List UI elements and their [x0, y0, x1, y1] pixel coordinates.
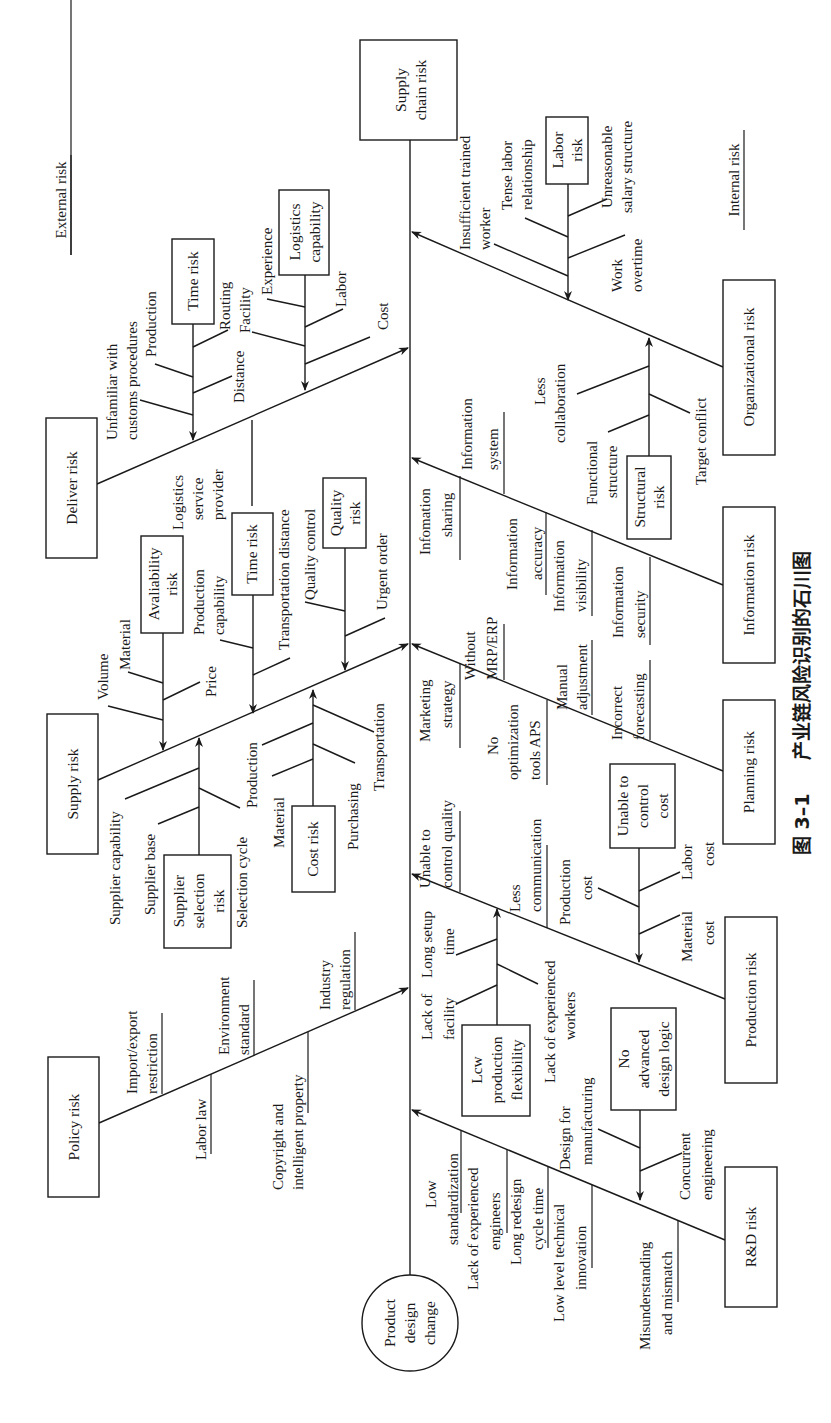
- svg-text:Distance: Distance: [231, 350, 247, 403]
- svg-text:cost: cost: [579, 875, 595, 900]
- svg-text:Routing: Routing: [217, 281, 233, 330]
- svg-text:Production risk: Production risk: [742, 952, 759, 1047]
- svg-text:forecasting: forecasting: [631, 673, 647, 740]
- svg-text:risk: risk: [163, 572, 180, 596]
- svg-text:structure: structure: [604, 445, 620, 498]
- svg-text:Deliver risk: Deliver risk: [63, 451, 80, 525]
- svg-text:flexibility: flexibility: [508, 1039, 525, 1100]
- caption-figure-number: 图 3–1: [791, 793, 813, 855]
- svg-text:Functional: Functional: [584, 441, 600, 505]
- svg-text:Incorrect: Incorrect: [609, 685, 625, 740]
- svg-text:External risk: External risk: [53, 161, 69, 239]
- svg-text:Tense labor: Tense labor: [499, 141, 515, 210]
- svg-text:design logic: design logic: [655, 1021, 672, 1096]
- svg-text:Structural: Structural: [631, 466, 648, 527]
- svg-text:Experience: Experience: [259, 227, 275, 295]
- quality-risk-box[interactable]: Quality risk: [323, 478, 366, 548]
- svg-text:intelligent property: intelligent property: [290, 1074, 306, 1190]
- svg-text:cost: cost: [701, 920, 717, 945]
- svg-text:Environment: Environment: [216, 976, 232, 1055]
- svg-text:Transportation distance: Transportation distance: [276, 509, 292, 650]
- svg-text:adjustment: adjustment: [574, 643, 590, 710]
- svg-text:capability: capability: [211, 575, 227, 635]
- branch-policy-risk: Policy risk Import/export restriction La…: [48, 932, 408, 1197]
- no-advanced-design-logic-box[interactable]: No advanced design logic: [611, 1008, 676, 1110]
- supplier-selection-risk-box[interactable]: Supplier selection risk: [164, 855, 231, 948]
- deliver-risk-box[interactable]: Deliver risk: [46, 418, 97, 558]
- svg-text:Unfamiliar with: Unfamiliar with: [104, 343, 120, 440]
- svg-text:risk: risk: [568, 138, 585, 162]
- svg-text:Supplier capability: Supplier capability: [107, 811, 123, 925]
- svg-text:engineers: engineers: [487, 1192, 503, 1250]
- svg-text:customs procedures: customs procedures: [124, 321, 140, 440]
- svg-text:Facility: Facility: [237, 287, 253, 333]
- svg-text:Production: Production: [557, 859, 573, 925]
- policy-risk-box[interactable]: Policy risk: [48, 1057, 99, 1197]
- svg-text:manufacturing: manufacturing: [579, 1077, 595, 1165]
- svg-text:Logistics: Logistics: [286, 204, 303, 261]
- svg-text:Misunderstanding: Misunderstanding: [637, 1241, 653, 1350]
- tail-label-2: design: [401, 1303, 418, 1344]
- svg-text:Quality: Quality: [327, 490, 344, 537]
- cost-risk-box[interactable]: Cost risk: [292, 806, 335, 892]
- fishbone-diagram: Supply chain risk Product design change …: [0, 0, 831, 1423]
- svg-text:Material: Material: [271, 797, 287, 848]
- labor-risk-box[interactable]: Labor risk: [546, 117, 588, 184]
- svg-text:Information: Information: [610, 566, 626, 638]
- planning-risk-box[interactable]: Planning risk: [723, 700, 775, 844]
- svg-text:standard: standard: [236, 1004, 252, 1055]
- svg-text:engineering: engineering: [699, 1129, 715, 1200]
- svg-text:production: production: [488, 1036, 505, 1103]
- svg-text:Time risk: Time risk: [243, 524, 260, 584]
- supply-time-risk-box[interactable]: Time risk: [232, 513, 273, 595]
- svg-text:Planning risk: Planning risk: [740, 731, 757, 813]
- svg-text:Avaliability: Avaliability: [145, 547, 162, 620]
- svg-text:Unable to: Unable to: [614, 775, 631, 836]
- deliver-time-risk-box[interactable]: Time risk: [172, 239, 214, 324]
- svg-text:Lcw: Lcw: [468, 1055, 485, 1083]
- tail-circle-product-design-change[interactable]: Product design change: [362, 1275, 458, 1371]
- organizational-risk-box[interactable]: Organizational risk: [723, 280, 775, 455]
- svg-text:Supplier base: Supplier base: [142, 833, 158, 915]
- svg-text:Insufficient trained: Insufficient trained: [457, 135, 473, 250]
- svg-text:Supply risk: Supply risk: [64, 748, 81, 819]
- svg-text:Long redesign: Long redesign: [508, 1178, 524, 1265]
- svg-text:and mismatch: and mismatch: [659, 1251, 675, 1335]
- svg-text:cost: cost: [654, 793, 671, 819]
- branch-information-risk: Information risk Infomation sharing Info…: [412, 398, 775, 663]
- svg-text:Price: Price: [203, 666, 219, 697]
- unable-to-control-cost-box[interactable]: Unable to control cost: [610, 764, 675, 848]
- svg-text:salary structure: salary structure: [619, 121, 635, 213]
- branch-planning-risk: Planning risk Marketing strategy Without…: [412, 617, 775, 844]
- head-box-supply-chain-risk[interactable]: Supply chain risk: [360, 40, 457, 140]
- svg-text:Target conflict: Target conflict: [693, 397, 709, 485]
- head-label-2: chain risk: [412, 59, 429, 120]
- svg-text:Purchasing: Purchasing: [345, 783, 361, 850]
- svg-text:Material: Material: [679, 911, 695, 962]
- logistics-capability-box[interactable]: Logistics capability: [279, 190, 329, 275]
- svg-text:Less: Less: [532, 377, 548, 405]
- low-production-flexibility-box[interactable]: Lcw production flexibility: [462, 1025, 530, 1116]
- svg-text:Work: Work: [609, 259, 625, 292]
- svg-text:risk: risk: [346, 501, 363, 525]
- svg-text:Cost: Cost: [375, 302, 391, 330]
- svg-text:Less: Less: [507, 884, 523, 912]
- svg-text:service: service: [190, 477, 206, 520]
- svg-text:Design for: Design for: [557, 1106, 573, 1170]
- svg-text:R&D risk: R&D risk: [742, 1206, 759, 1267]
- svg-text:Material: Material: [117, 619, 133, 670]
- information-risk-box[interactable]: Information risk: [723, 507, 775, 663]
- production-risk-box[interactable]: Production risk: [725, 917, 777, 1083]
- rnd-risk-box[interactable]: R&D risk: [725, 1167, 777, 1307]
- svg-text:Labor law: Labor law: [193, 1099, 209, 1160]
- svg-text:advanced: advanced: [635, 1029, 652, 1088]
- structural-risk-box[interactable]: Structural risk: [627, 456, 671, 539]
- supply-risk-box[interactable]: Supply risk: [47, 714, 98, 854]
- availability-risk-box[interactable]: Avaliability risk: [141, 536, 183, 633]
- svg-text:Low: Low: [423, 1180, 439, 1208]
- caption-title: 产业链风险识别的石川图: [791, 551, 813, 760]
- svg-text:Marketing: Marketing: [417, 679, 433, 742]
- svg-text:standardization: standardization: [445, 1153, 461, 1245]
- svg-text:time: time: [441, 928, 457, 955]
- svg-text:Organizational risk: Organizational risk: [740, 307, 757, 426]
